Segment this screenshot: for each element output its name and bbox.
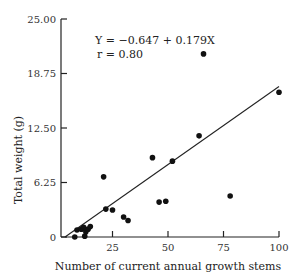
x-axis-title: Number of current annual growth stems bbox=[55, 260, 282, 273]
data-point bbox=[121, 214, 127, 220]
data-point bbox=[276, 89, 282, 95]
x-tick-label: 75 bbox=[217, 242, 230, 253]
data-points bbox=[72, 51, 282, 240]
regression-equation: Y = −0.647 + 0.179X bbox=[94, 34, 215, 47]
data-point bbox=[125, 218, 131, 224]
data-point bbox=[227, 193, 233, 199]
scatter-chart: 06.2512.5018.7525.00255075100 Y = −0.647… bbox=[0, 0, 304, 280]
y-tick-label: 25.00 bbox=[27, 14, 56, 25]
data-point bbox=[150, 155, 156, 161]
x-tick-label: 25 bbox=[106, 242, 119, 253]
y-tick-label: 12.50 bbox=[27, 123, 56, 134]
data-point bbox=[110, 207, 116, 213]
data-point bbox=[201, 51, 207, 57]
data-point bbox=[103, 206, 109, 212]
data-point bbox=[196, 133, 202, 139]
data-point bbox=[101, 174, 107, 180]
x-tick-label: 100 bbox=[269, 242, 288, 253]
correlation-coefficient: r = 0.80 bbox=[97, 48, 143, 61]
y-tick-label: 6.25 bbox=[34, 177, 56, 188]
y-axis-title: Total weight (g) bbox=[12, 116, 25, 204]
y-tick-label: 18.75 bbox=[27, 68, 56, 79]
y-tick-label: 0 bbox=[50, 232, 56, 243]
data-point bbox=[170, 158, 176, 164]
x-tick-label: 50 bbox=[162, 242, 175, 253]
data-point bbox=[163, 198, 169, 204]
data-point bbox=[88, 224, 94, 230]
axes: 06.2512.5018.7525.00255075100 bbox=[27, 14, 288, 254]
data-point bbox=[72, 234, 78, 240]
data-point bbox=[156, 199, 162, 205]
